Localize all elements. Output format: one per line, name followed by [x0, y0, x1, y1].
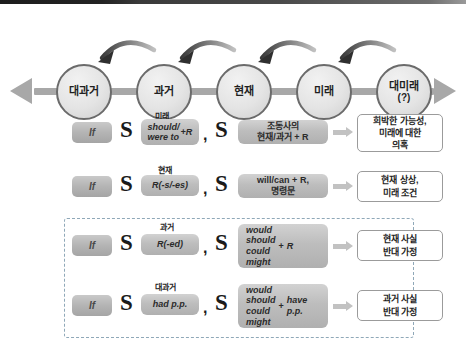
outcome-box: 과거 사실 반대 가정: [357, 290, 443, 321]
verb-line-2: were to: [148, 132, 180, 142]
tense-tag: 현재: [158, 164, 172, 175]
main-clause-box: would should could might + have p.p.: [238, 284, 328, 328]
if-box: If: [72, 235, 112, 256]
if-box: If: [72, 176, 112, 197]
modal-stack: would should could might + have p.p.: [246, 285, 307, 327]
verb-form-box: had p.p.: [141, 294, 199, 315]
tense-tag: 대과거: [155, 281, 176, 292]
modal-complement-1: have: [287, 295, 308, 306]
top-banner-strip: [0, 0, 466, 4]
timeline-diagram: 대과거 과거 현재 미래 대미래 (?): [0, 22, 466, 104]
verb-line-1: should/: [148, 122, 180, 132]
outcome-line-1: 희박한 가능성,: [373, 115, 426, 127]
verb-fraction: should/ were to +R: [148, 122, 193, 142]
subject-symbol-1: S: [120, 290, 133, 316]
clause-comma: ,: [203, 299, 207, 317]
formula-rows: If S 미래 should/ were to +R , S 조동사의 현재/과…: [0, 108, 466, 334]
outcome-line-1: 현재 상상,: [381, 174, 418, 186]
subject-symbol-1: S: [120, 230, 133, 256]
timeline-node-label: 과거: [154, 86, 174, 98]
outcome-box: 현재 사실 반대 가정: [357, 230, 443, 261]
modal-option: could: [246, 306, 276, 317]
modal-stack: would should could might + R: [246, 225, 293, 267]
timeline-node-sublabel: (?): [398, 93, 411, 104]
timeline-node-label: 대과거: [69, 86, 99, 98]
verb-form-box: R(-s/-es): [141, 175, 199, 196]
modal-complement-1: R: [287, 241, 294, 252]
arrow-right-small-icon: [333, 301, 353, 311]
main-clause-box: would should could might + R: [238, 224, 328, 268]
arrow-right-small-icon: [333, 127, 353, 137]
timeline-node-label: 대미래: [389, 81, 419, 93]
formula-row-past-perfect-subjunctive: If S 대과거 had p.p. , S would should could…: [0, 274, 466, 334]
plus-symbol: +: [279, 301, 284, 311]
clause-comma: ,: [203, 180, 207, 198]
verb-text: R(-ed): [157, 239, 183, 249]
modal-option: might: [246, 257, 276, 268]
arrow-right-small-icon: [333, 241, 353, 251]
outcome-line-2: 반대 가정: [383, 306, 418, 318]
verb-form-box: should/ were to +R: [141, 119, 199, 145]
subject-symbol-1: S: [120, 117, 133, 143]
outcome-box: 현재 상상, 미래 조건: [357, 171, 443, 202]
subject-symbol-2: S: [215, 117, 228, 143]
tense-tag: 과거: [160, 221, 174, 232]
subject-symbol-1: S: [120, 171, 133, 197]
outcome-line-2: 반대 가정: [383, 246, 418, 258]
main-clause-line-1: 조동사의: [257, 121, 308, 132]
outcome-line-2: 미래에 대한: [379, 127, 422, 139]
outcome-line-3: 의혹: [392, 139, 408, 151]
main-clause-line-2: 현재/과거 + R: [257, 132, 308, 143]
verb-text: had p.p.: [153, 299, 188, 309]
subject-symbol-2: S: [215, 171, 228, 197]
modal-option: might: [246, 317, 276, 328]
main-clause-line-2: 명령문: [257, 186, 309, 197]
formula-row-future: If S 미래 should/ were to +R , S 조동사의 현재/과…: [0, 108, 466, 161]
arrow-right-icon: [434, 78, 456, 104]
outcome-box: 희박한 가능성, 미래에 대한 의혹: [357, 114, 443, 152]
arrow-left-icon: [10, 78, 32, 104]
clause-comma: ,: [203, 239, 207, 257]
subject-symbol-2: S: [215, 230, 228, 256]
timeline-node-label: 미래: [314, 86, 334, 98]
modal-option: should: [246, 235, 276, 246]
formula-row-past-subjunctive: If S 과거 R(-ed) , S would should could mi…: [0, 214, 466, 274]
verb-text: R(-s/-es): [152, 180, 188, 190]
main-clause-box: 조동사의 현재/과거 + R: [238, 120, 328, 144]
plus-symbol: +: [279, 241, 284, 251]
main-clause-line-1: will/can + R,: [257, 175, 309, 186]
verb-form-box: R(-ed): [141, 234, 199, 255]
subject-symbol-2: S: [215, 290, 228, 316]
if-box: If: [72, 295, 112, 316]
main-clause-box: will/can + R, 명령문: [238, 174, 328, 198]
modal-option: could: [246, 246, 276, 257]
modal-option: should: [246, 295, 276, 306]
formula-row-present: If S 현재 R(-s/-es) , S will/can + R, 명령문 …: [0, 161, 466, 214]
outcome-line-2: 미래 조건: [383, 187, 418, 199]
outcome-line-1: 과거 사실: [383, 293, 418, 305]
if-box: If: [72, 122, 112, 143]
arrow-right-small-icon: [333, 181, 353, 191]
verb-suffix: +R: [181, 127, 193, 137]
modal-option: would: [246, 285, 276, 296]
clause-comma: ,: [203, 126, 207, 144]
modal-complement-2: p.p.: [287, 306, 308, 317]
outcome-line-1: 현재 사실: [383, 233, 418, 245]
timeline-node-label: 현재: [234, 86, 254, 98]
modal-option: would: [246, 225, 276, 236]
